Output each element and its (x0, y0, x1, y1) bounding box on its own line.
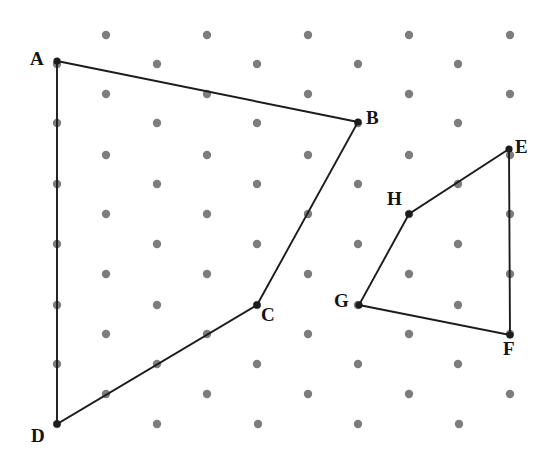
quadrilateral-EFGH (359, 149, 510, 335)
lattice-dot (203, 270, 211, 278)
lattice-dot (253, 119, 261, 127)
lattice-dot (405, 31, 413, 39)
geometry-figure: ABCDEFGH (0, 0, 549, 463)
vertex-label-h: H (387, 189, 402, 208)
vertex-point-a (53, 57, 60, 64)
lattice-dot (102, 270, 110, 278)
lattice-dot (203, 31, 211, 39)
vertex-label-b: B (366, 108, 379, 127)
lattice-dot (354, 420, 362, 428)
lattice-dot (153, 60, 161, 68)
lattice-dot (102, 210, 110, 218)
vertex-label-e: E (515, 137, 528, 156)
vertex-point-c (253, 301, 260, 308)
lattice-dot (506, 31, 514, 39)
vertex-label-g: G (334, 291, 349, 310)
lattice-dot (354, 240, 362, 248)
vertex-label-f: F (503, 339, 515, 358)
lattice-dot (203, 151, 211, 159)
lattice-dot (405, 90, 413, 98)
vertex-label-d: D (31, 426, 45, 445)
lattice-dot (253, 360, 261, 368)
lattice-dot (405, 390, 413, 398)
lattice-dot (304, 390, 312, 398)
lattice-dot (203, 210, 211, 218)
dot-lattice (53, 31, 514, 428)
vertex-point-h (405, 210, 412, 217)
lattice-dot (253, 60, 261, 68)
vertex-label-c: C (261, 305, 275, 324)
lattice-dot (354, 180, 362, 188)
lattice-dot (304, 90, 312, 98)
vertex-point-g (355, 301, 362, 308)
lattice-dot (304, 151, 312, 159)
lattice-dot (304, 31, 312, 39)
lattice-dot (254, 420, 262, 428)
lattice-dot (102, 330, 110, 338)
lattice-dot (354, 360, 362, 368)
lattice-dot (253, 180, 261, 188)
lattice-dot (102, 151, 110, 159)
lattice-dot (153, 420, 161, 428)
vertex-point-e (505, 145, 512, 152)
lattice-dot (304, 270, 312, 278)
polygon-vertices (53, 57, 513, 427)
vertex-point-d (53, 420, 60, 427)
lattice-dot (203, 390, 211, 398)
lattice-dot (153, 180, 161, 188)
lattice-dot (405, 270, 413, 278)
lattice-dot (454, 119, 462, 127)
lattice-dot (102, 90, 110, 98)
lattice-dot (253, 240, 261, 248)
lattice-dot (455, 420, 463, 428)
lattice-dot (153, 119, 161, 127)
lattice-dot (153, 301, 161, 309)
lattice-dot (506, 390, 514, 398)
lattice-dot (454, 301, 462, 309)
polygon-edges (57, 61, 510, 424)
lattice-dot (102, 31, 110, 39)
figure-canvas (0, 0, 549, 463)
vertex-label-a: A (30, 49, 44, 68)
quadrilateral-ABCD (57, 61, 358, 424)
lattice-dot (454, 240, 462, 248)
lattice-dot (304, 330, 312, 338)
lattice-dot (405, 330, 413, 338)
vertex-point-b (354, 118, 361, 125)
lattice-dot (454, 360, 462, 368)
lattice-dot (506, 90, 514, 98)
lattice-dot (354, 60, 362, 68)
lattice-dot (454, 60, 462, 68)
lattice-dot (153, 240, 161, 248)
lattice-dot (405, 151, 413, 159)
